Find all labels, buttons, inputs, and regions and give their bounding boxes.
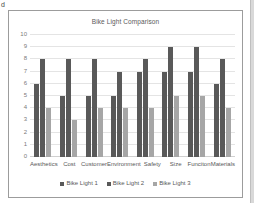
bar[interactable] — [168, 47, 173, 157]
legend-swatch-icon — [107, 182, 111, 186]
y-axis-tick-3: 3 — [24, 116, 27, 122]
bar-group — [209, 35, 235, 157]
legend-swatch-icon — [153, 182, 157, 186]
bar-group — [30, 35, 56, 157]
plot-area: 012345678910 — [30, 35, 235, 157]
x-axis-labels: AestheticsCostCustomerEnvironmentSafetyS… — [30, 159, 235, 171]
legend-label: Bike Light 1 — [66, 180, 97, 187]
bar-group — [184, 35, 210, 157]
legend-item[interactable]: Bike Light 1 — [60, 180, 97, 187]
y-axis-tick-1: 1 — [24, 141, 27, 147]
bar[interactable] — [92, 59, 97, 157]
legend-label: Bike Light 3 — [159, 180, 190, 187]
x-axis-label: Safety — [141, 159, 164, 171]
y-axis-tick-5: 5 — [24, 92, 27, 98]
y-axis-tick-10: 10 — [20, 31, 27, 37]
bar[interactable] — [123, 108, 128, 157]
bar[interactable] — [72, 120, 77, 157]
bar[interactable] — [226, 108, 231, 157]
bar[interactable] — [86, 96, 91, 157]
y-axis-tick-0: 0 — [24, 153, 27, 159]
y-axis-tick-2: 2 — [24, 129, 27, 135]
bar[interactable] — [66, 59, 71, 157]
bar[interactable] — [188, 72, 193, 157]
chart-inner: Bike Light Comparison 012345678910 Aesth… — [11, 13, 240, 195]
bar[interactable] — [200, 96, 205, 157]
y-axis-tick-9: 9 — [24, 43, 27, 49]
chart-object[interactable]: Bike Light Comparison 012345678910 Aesth… — [8, 10, 243, 198]
x-axis-label: Size — [164, 159, 187, 171]
legend-label: Bike Light 2 — [113, 180, 144, 187]
bar[interactable] — [174, 96, 179, 157]
bar[interactable] — [117, 72, 122, 157]
x-axis-label: Customer — [81, 159, 107, 171]
bar[interactable] — [111, 96, 116, 157]
bar[interactable] — [143, 59, 148, 157]
bar[interactable] — [162, 72, 167, 157]
y-axis-tick-6: 6 — [24, 80, 27, 86]
y-axis-tick-8: 8 — [24, 55, 27, 61]
page-edge-line — [250, 0, 251, 203]
bar[interactable] — [34, 84, 39, 157]
x-axis-label: Materials — [211, 159, 235, 171]
x-axis-label: Cost — [58, 159, 81, 171]
y-axis-tick-4: 4 — [24, 104, 27, 110]
bar[interactable] — [60, 96, 65, 157]
bar-group — [107, 35, 133, 157]
bar[interactable] — [46, 108, 51, 157]
bars-layer — [30, 35, 235, 157]
legend-swatch-icon — [60, 182, 64, 186]
bar[interactable] — [149, 108, 154, 157]
bar[interactable] — [98, 108, 103, 157]
bar-group — [81, 35, 107, 157]
chart-title: Bike Light Comparison — [11, 18, 240, 25]
stray-document-text: d — [1, 1, 5, 9]
x-axis-label: Funciton — [187, 159, 210, 171]
bar[interactable] — [214, 84, 219, 157]
legend-item[interactable]: Bike Light 2 — [107, 180, 144, 187]
bar[interactable] — [194, 47, 199, 157]
bar-group — [133, 35, 159, 157]
page-edge-shadow — [251, 0, 254, 203]
x-axis-label: Aesthetics — [30, 159, 58, 171]
legend-item[interactable]: Bike Light 3 — [153, 180, 190, 187]
bar[interactable] — [137, 72, 142, 157]
bar-group — [56, 35, 82, 157]
chart-legend: Bike Light 1Bike Light 2Bike Light 3 — [11, 180, 240, 187]
y-axis-tick-7: 7 — [24, 68, 27, 74]
bar[interactable] — [40, 59, 45, 157]
bar[interactable] — [220, 59, 225, 157]
document-page: d Bike Light Comparison 012345678910 Aes… — [0, 0, 254, 203]
bar-group — [158, 35, 184, 157]
x-axis-label: Environment — [107, 159, 141, 171]
